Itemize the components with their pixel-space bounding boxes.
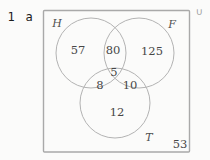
union-symbol: ∪ — [196, 6, 203, 17]
region-value-f-and-t: 10 — [123, 78, 138, 92]
question-part: a — [25, 10, 32, 24]
question-number: 1 — [7, 10, 14, 24]
region-value-t-only: 12 — [110, 105, 125, 119]
universal-set-rectangle — [44, 11, 190, 153]
region-value-outside: 53 — [173, 137, 188, 151]
region-value-h-and-t: 8 — [96, 78, 103, 92]
region-value-h-only: 57 — [71, 43, 86, 57]
venn-diagram-page: 1 a ∪ H F T 57 80 125 8 5 10 12 53 — [0, 0, 210, 160]
region-value-h-and-f: 80 — [106, 43, 121, 57]
set-label-F: F — [167, 18, 176, 31]
region-value-center: 5 — [110, 65, 117, 79]
set-label-T: T — [145, 131, 154, 144]
venn-diagram-canvas: 1 a ∪ H F T 57 80 125 8 5 10 12 53 — [0, 0, 210, 160]
region-value-f-only: 125 — [141, 44, 163, 58]
set-label-H: H — [51, 17, 62, 30]
